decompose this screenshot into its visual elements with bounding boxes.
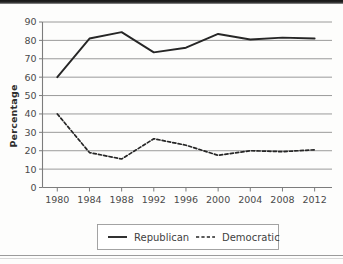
- y-tick-label-60: 60: [24, 72, 36, 83]
- chart-figure: 0102030405060708090 19801984198819921996…: [0, 4, 343, 254]
- legend-label-democratic: Democratic: [222, 232, 280, 243]
- x-tick-label-1984: 1984: [77, 194, 101, 205]
- y-tick-label-50: 50: [24, 90, 36, 101]
- x-tick-label-1980: 1980: [45, 194, 69, 205]
- y-tick-label-40: 40: [24, 108, 36, 119]
- legend: Republican Democratic: [98, 225, 280, 250]
- line-chart: 0102030405060708090 19801984198819921996…: [0, 4, 343, 254]
- x-tick-label-2008: 2008: [270, 194, 294, 205]
- page-divider-rule-secondary: [0, 258, 343, 259]
- series-line-republican: [57, 32, 314, 77]
- scanned-page: 0102030405060708090 19801984198819921996…: [0, 0, 343, 264]
- x-tick-label-2004: 2004: [238, 194, 262, 205]
- y-tick-label-10: 10: [24, 164, 36, 175]
- y-axis-title: Percentage: [8, 84, 19, 147]
- y-tick-label-20: 20: [24, 145, 36, 156]
- series-line-democratic: [57, 114, 314, 159]
- x-tick-label-1988: 1988: [110, 194, 134, 205]
- y-axis-tick-labels: 0102030405060708090: [24, 16, 36, 193]
- y-tick-label-90: 90: [24, 16, 36, 27]
- x-tick-label-2000: 2000: [206, 194, 230, 205]
- x-tick-label-1992: 1992: [142, 194, 166, 205]
- y-tick-label-0: 0: [30, 182, 36, 193]
- page-divider-rule: [0, 255, 343, 256]
- y-tick-label-30: 30: [24, 127, 36, 138]
- y-tick-label-70: 70: [24, 53, 36, 64]
- x-axis-tick-marks: [57, 188, 314, 192]
- x-tick-label-2012: 2012: [303, 194, 327, 205]
- y-tick-label-80: 80: [24, 35, 36, 46]
- x-axis-tick-labels: 198019841988199219962000200420082012: [45, 194, 327, 205]
- x-tick-label-1996: 1996: [174, 194, 198, 205]
- legend-label-republican: Republican: [134, 232, 189, 243]
